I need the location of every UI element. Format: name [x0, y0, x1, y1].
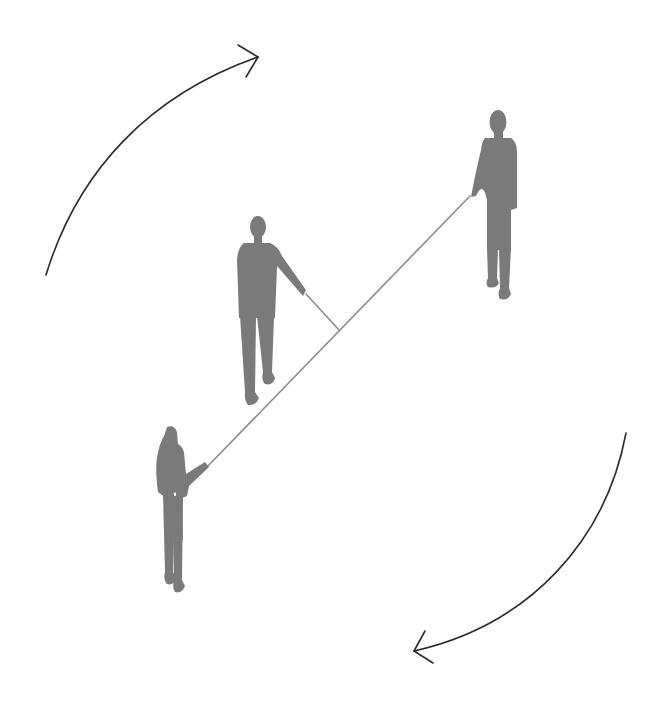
arrow-top-left-icon [46, 45, 258, 275]
rope-rotation-diagram [0, 0, 666, 715]
person-left-icon [156, 426, 209, 592]
person-right-icon [471, 110, 517, 299]
arrow-bottom-right-icon [414, 433, 626, 663]
